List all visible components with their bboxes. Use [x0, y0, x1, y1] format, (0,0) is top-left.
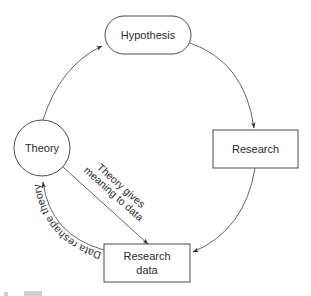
node-hypothesis-label: Hypothesis: [121, 29, 176, 41]
node-research: Research: [213, 130, 298, 168]
node-theory-label: Theory: [25, 142, 60, 154]
edge-label-theory-gives-meaning: Theory gives meaning to data: [82, 156, 153, 224]
node-theory: Theory: [14, 120, 70, 176]
edge-label-data-reshape-theory-path: Data reshape theory: [30, 183, 102, 262]
node-research-data: Research data: [104, 244, 190, 282]
node-hypothesis: Hypothesis: [105, 16, 191, 54]
node-research-data-label-line1: Research: [123, 250, 170, 262]
edge-label-data-reshape-theory: Data reshape theory: [30, 183, 102, 262]
cropped-caption-fragments: [4, 291, 42, 296]
node-research-data-label-line2: data: [136, 264, 158, 276]
edge-hypothesis-to-research: [190, 43, 254, 128]
edge-research-to-research-data: [193, 168, 255, 252]
node-research-label: Research: [232, 143, 279, 155]
research-cycle-diagram: Hypothesis Research Research data Theory…: [0, 0, 311, 296]
edge-theory-to-hypothesis: [43, 46, 102, 120]
